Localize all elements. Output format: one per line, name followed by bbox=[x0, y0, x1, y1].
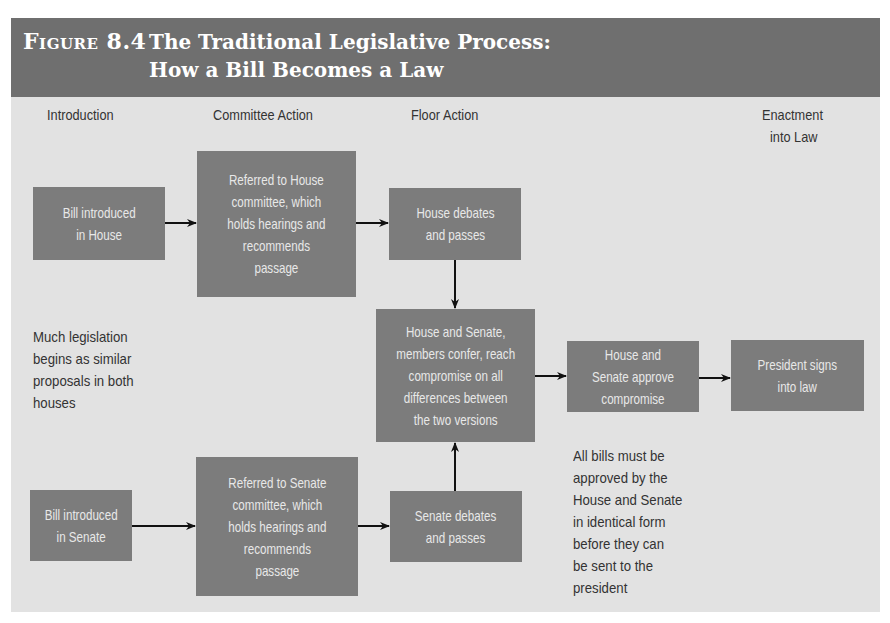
flow-arrows bbox=[0, 0, 890, 623]
